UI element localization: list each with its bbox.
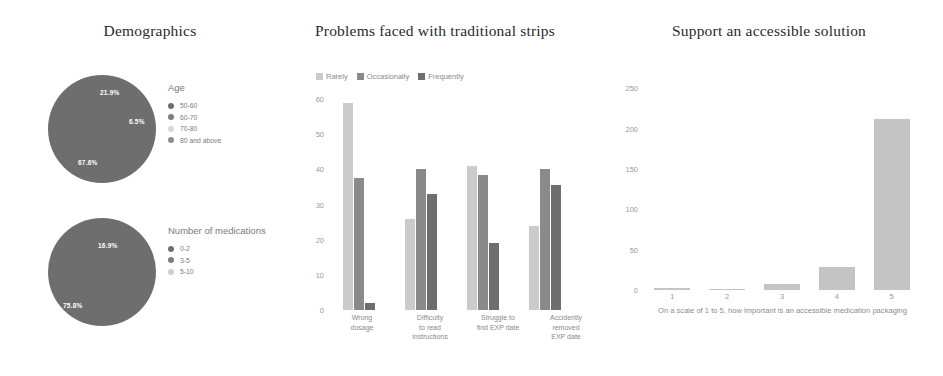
legend-item: Occasionally (357, 72, 410, 81)
axis-tick-label: 250 (625, 84, 638, 93)
bar (427, 194, 437, 310)
bar-group (405, 92, 437, 310)
legend-item: Rarely (316, 72, 348, 81)
problems-plot-area (328, 92, 576, 310)
legend-dot-icon (168, 137, 174, 143)
problems-legend: Rarely Occasionally Frequently (316, 72, 464, 81)
legend-label: 5-10 (180, 268, 194, 275)
legend-dot-icon (168, 257, 174, 263)
axis-category-label: Difficultyto readinstructions (401, 313, 459, 342)
axis-category-label: Struggle tofind EXP date (469, 313, 527, 342)
bar (540, 169, 550, 310)
axis-tick-label: 0 (320, 306, 324, 315)
support-y-axis: 050100150200250 (615, 82, 641, 290)
support-caption: On a scale of 1 to 5, how important is a… (615, 306, 943, 315)
legend-label: Occasionally (367, 72, 410, 81)
bar-column (709, 82, 745, 290)
legend-dot-icon (168, 103, 174, 109)
axis-category-label: 2 (709, 292, 745, 301)
pie-slice-label: 67.6% (78, 159, 97, 166)
axis-tick-label: 150 (625, 165, 638, 174)
axis-tick-label: 60 (316, 95, 324, 104)
pie-slice-label: 21.9% (100, 89, 119, 96)
axis-tick-label: 40 (316, 165, 324, 174)
axis-category-label: Wrongdosage (333, 313, 391, 342)
axis-tick-label: 100 (625, 205, 638, 214)
problems-bar-chart: 0102030405060 (304, 92, 576, 310)
age-pie-chart: 67.6% 21.9% 6.5% Age 50-60 60-70 70-80 8… (0, 72, 300, 197)
legend-dot-icon (168, 269, 174, 275)
axis-tick-label: 200 (625, 124, 638, 133)
bar (489, 243, 499, 310)
bar (478, 175, 488, 310)
bar (365, 303, 375, 310)
axis-tick-label: 30 (316, 200, 324, 209)
pie-slice-label: 16.9% (98, 242, 117, 249)
legend-swatch-icon (418, 73, 425, 80)
legend-item: Frequently (418, 72, 463, 81)
axis-category-label: AccidentlyremovedEXP date (537, 313, 595, 342)
bar (416, 169, 426, 310)
bar-group (529, 92, 561, 310)
axis-tick-label: 0 (634, 286, 638, 295)
legend-dot-icon (168, 246, 174, 252)
legend-label: Rarely (326, 72, 348, 81)
medications-pie-graphic (48, 218, 156, 326)
bar (819, 267, 855, 290)
demographics-title: Demographics (0, 22, 300, 40)
legend-label: 0-2 (180, 245, 190, 252)
legend-label: 80 and above (180, 137, 221, 144)
medications-pie-chart: 75.8% 16.9% Number of medications 0-2 3-… (0, 215, 300, 340)
axis-tick-label: 50 (316, 130, 324, 139)
bar-group (467, 92, 499, 310)
axis-tick-label: 50 (630, 245, 638, 254)
bar (764, 284, 800, 290)
pie-slice-label: 6.5% (129, 118, 145, 125)
legend-label: 3-5 (180, 257, 190, 264)
support-title: Support an accessible solution (595, 22, 943, 40)
legend-dot-icon (168, 126, 174, 132)
legend-dot-icon (168, 114, 174, 120)
demographics-panel: Demographics 67.6% 21.9% 6.5% Age 50-60 … (0, 0, 300, 376)
axis-category-label: 1 (654, 292, 690, 301)
legend-swatch-icon (357, 73, 364, 80)
bar (405, 219, 415, 310)
support-x-axis: 12345 (645, 292, 919, 301)
bar-group (343, 92, 375, 310)
support-plot-area (645, 82, 919, 290)
legend-label: 60-70 (180, 114, 197, 121)
legend-swatch-icon (316, 73, 323, 80)
axis-category-label: 4 (819, 292, 855, 301)
legend-label: 70-80 (180, 125, 197, 132)
bar (709, 289, 745, 291)
bar (529, 226, 539, 310)
bar-column (654, 82, 690, 290)
support-panel: Support an accessible solution 050100150… (595, 0, 943, 376)
bar (467, 166, 477, 310)
axis-tick-label: 10 (316, 270, 324, 279)
support-bar-chart: 050100150200250 12345 On a scale of 1 to… (615, 82, 925, 304)
problems-panel: Problems faced with traditional strips R… (270, 0, 600, 376)
problems-x-axis: WrongdosageDifficultyto readinstructions… (328, 313, 600, 342)
bar (874, 119, 910, 290)
bar-column (874, 82, 910, 290)
legend-label: 50-60 (180, 102, 197, 109)
bar-column (764, 82, 800, 290)
bar (551, 185, 561, 310)
legend-label: Frequently (428, 72, 463, 81)
bar (354, 178, 364, 310)
bar (654, 288, 690, 290)
problems-y-axis: 0102030405060 (304, 92, 326, 310)
axis-category-label: 5 (874, 292, 910, 301)
axis-category-label: 3 (764, 292, 800, 301)
problems-title: Problems faced with traditional strips (270, 22, 600, 40)
bar-column (819, 82, 855, 290)
pie-slice-label: 75.8% (63, 302, 82, 309)
axis-tick-label: 20 (316, 235, 324, 244)
bar (343, 103, 353, 310)
